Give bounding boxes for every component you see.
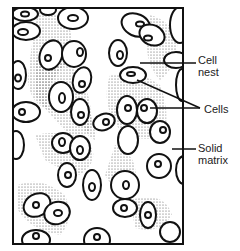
cell-nest-label: Cell nest (198, 54, 219, 78)
cells-label: Cells (204, 103, 228, 115)
histology-diagram (0, 0, 240, 251)
solid-matrix-label: Solid matrix (198, 142, 228, 166)
